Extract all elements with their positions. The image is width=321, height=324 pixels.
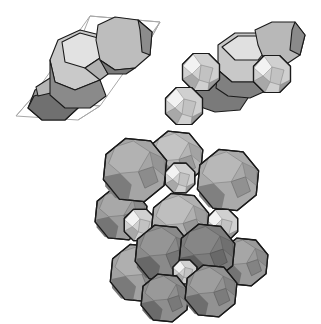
figure-svg [0, 0, 321, 324]
polyhedra-figure [0, 0, 321, 324]
